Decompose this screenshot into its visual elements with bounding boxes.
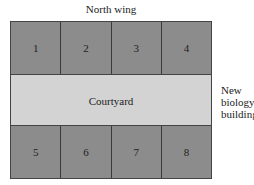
label-line: biology xyxy=(221,96,254,108)
floor-plan: 1 2 3 4 Courtyard 5 6 7 8 xyxy=(10,21,212,179)
courtyard: Courtyard xyxy=(11,75,211,126)
room-3: 3 xyxy=(112,22,162,74)
north-row: 1 2 3 4 xyxy=(11,22,211,75)
north-wing-label: North wing xyxy=(10,3,212,15)
room-1: 1 xyxy=(11,22,61,74)
room-4: 4 xyxy=(162,22,211,74)
room-5: 5 xyxy=(11,126,61,178)
room-8: 8 xyxy=(162,126,211,178)
room-2: 2 xyxy=(61,22,111,74)
room-7: 7 xyxy=(112,126,162,178)
new-biology-building-label: New biology building xyxy=(221,84,254,120)
label-line: building xyxy=(221,108,254,120)
label-line: New xyxy=(221,84,254,96)
room-6: 6 xyxy=(61,126,111,178)
south-row: 5 6 7 8 xyxy=(11,125,211,178)
